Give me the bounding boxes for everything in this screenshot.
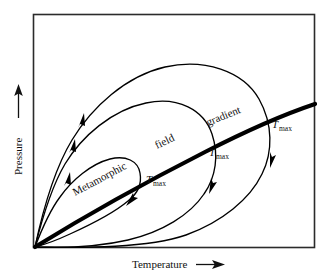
x-axis-label: Temperature bbox=[132, 258, 188, 270]
tmax-subscript-medium: max bbox=[216, 152, 229, 161]
tmax-symbol-small: T bbox=[146, 173, 153, 185]
tmax-subscript-small: max bbox=[153, 179, 166, 188]
pt-diagram-figure: Metamorphic field gradient T max T max T… bbox=[0, 0, 331, 280]
tmax-symbol-large: T bbox=[272, 118, 279, 130]
tmax-symbol-medium: T bbox=[209, 146, 216, 158]
tmax-subscript-large: max bbox=[279, 124, 292, 133]
y-axis-label: Pressure bbox=[12, 138, 24, 175]
